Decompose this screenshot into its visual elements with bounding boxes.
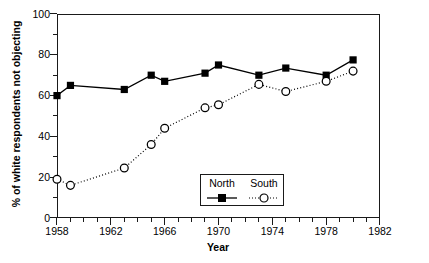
x-tick-1982 bbox=[379, 218, 380, 225]
x-minor-tick bbox=[151, 218, 152, 222]
y-tick-label-40: 40 bbox=[22, 131, 50, 142]
y-tick-label-60: 60 bbox=[22, 90, 50, 101]
y-tick-label-80: 80 bbox=[22, 49, 50, 60]
y-minor-tick bbox=[53, 197, 57, 198]
x-tick-1958 bbox=[56, 218, 57, 225]
x-tick-label-1966: 1966 bbox=[145, 226, 185, 237]
y-axis-title: % of white respondents not objecting bbox=[10, 9, 22, 219]
legend-marker-north bbox=[218, 194, 226, 202]
x-tick-label-1978: 1978 bbox=[306, 226, 346, 237]
x-tick-label-1962: 1962 bbox=[91, 226, 131, 237]
y-tick-label-text: 100 bbox=[26, 9, 50, 20]
x-tick-label-1970: 1970 bbox=[199, 226, 239, 237]
y-tick-label-text: 0 bbox=[26, 213, 50, 224]
y-tick-80 bbox=[50, 54, 57, 55]
x-tick-label-1982: 1982 bbox=[360, 226, 400, 237]
x-minor-tick bbox=[366, 218, 367, 222]
y-tick-label-20: 20 bbox=[22, 172, 50, 183]
x-tick-1970 bbox=[218, 218, 219, 225]
y-tick-100 bbox=[50, 13, 57, 14]
legend-labels: North South bbox=[201, 177, 285, 189]
x-minor-tick bbox=[204, 218, 205, 222]
x-minor-tick bbox=[285, 218, 286, 222]
y-tick-20 bbox=[50, 177, 57, 178]
legend-keys bbox=[201, 191, 285, 205]
y-tick-label-text: 20 bbox=[26, 172, 50, 183]
x-minor-tick bbox=[97, 218, 98, 222]
x-tick-1974 bbox=[272, 218, 273, 225]
x-tick-1962 bbox=[110, 218, 111, 225]
y-tick-40 bbox=[50, 136, 57, 137]
x-tick-label-1958: 1958 bbox=[37, 226, 77, 237]
x-tick-1966 bbox=[164, 218, 165, 225]
x-minor-tick bbox=[178, 218, 179, 222]
x-minor-tick bbox=[299, 218, 300, 222]
legend-label-south: South bbox=[243, 177, 285, 189]
y-minor-tick bbox=[53, 156, 57, 157]
y-tick-label-text: 40 bbox=[26, 131, 50, 142]
x-minor-tick bbox=[353, 218, 354, 222]
x-minor-tick bbox=[191, 218, 192, 222]
y-tick-label-text: 80 bbox=[26, 49, 50, 60]
x-minor-tick bbox=[124, 218, 125, 222]
legend-label-north: North bbox=[201, 177, 243, 189]
y-minor-tick bbox=[53, 115, 57, 116]
y-tick-label-100: 100 bbox=[22, 9, 50, 20]
x-minor-tick bbox=[312, 218, 313, 222]
y-minor-tick bbox=[53, 34, 57, 35]
x-minor-tick bbox=[245, 218, 246, 222]
legend: North South bbox=[200, 174, 284, 206]
chart-container: 020406080100 195819621966197019741978198… bbox=[0, 0, 429, 263]
x-minor-tick bbox=[339, 218, 340, 222]
y-tick-label-0: 0 bbox=[22, 213, 50, 224]
x-minor-tick bbox=[137, 218, 138, 222]
y-tick-60 bbox=[50, 95, 57, 96]
legend-marker-south bbox=[260, 194, 268, 202]
x-minor-tick bbox=[231, 218, 232, 222]
x-minor-tick bbox=[70, 218, 71, 222]
x-tick-label-1974: 1974 bbox=[252, 226, 292, 237]
y-minor-tick bbox=[53, 75, 57, 76]
x-minor-tick bbox=[258, 218, 259, 222]
x-tick-1978 bbox=[326, 218, 327, 225]
x-axis-title: Year bbox=[158, 241, 278, 253]
y-tick-label-text: 60 bbox=[26, 90, 50, 101]
x-minor-tick bbox=[83, 218, 84, 222]
